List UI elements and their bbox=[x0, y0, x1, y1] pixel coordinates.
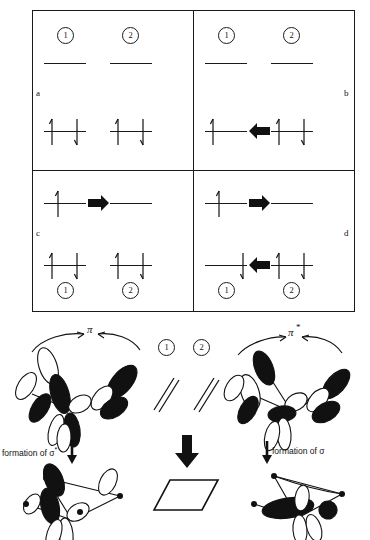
quadrant-c-transfer-arrow-right bbox=[88, 195, 110, 211]
left-upper-orbital-diagram bbox=[14, 342, 154, 444]
quadrant-a-electron-arrows bbox=[44, 117, 159, 147]
quadrant-b-upper-level-2 bbox=[271, 63, 313, 64]
quadrant-b-upper-level-1 bbox=[205, 63, 247, 64]
right-upper-orbital-diagram bbox=[222, 342, 362, 444]
right-product-orbital-diagram bbox=[240, 462, 370, 540]
scheme-circle-1: 1 bbox=[158, 339, 175, 356]
mo-box-vertical-divider bbox=[193, 10, 194, 312]
quadrant-b-circle-2: 2 bbox=[283, 27, 300, 44]
alkene-double-bond-symbols bbox=[150, 372, 230, 414]
quadrant-c-circle-2: 2 bbox=[122, 282, 139, 299]
quadrant-d-transfer-arrow-left bbox=[249, 257, 271, 273]
quadrant-c-label: c bbox=[36, 228, 40, 238]
quadrant-b-label: b bbox=[344, 88, 349, 98]
quadrant-c-circle-1: 1 bbox=[57, 282, 74, 299]
quadrant-b-circle-1: 1 bbox=[218, 27, 235, 44]
formation-sigma-label: formation of σ bbox=[272, 446, 325, 456]
formation-sigma-star-text: formation of σ bbox=[2, 448, 55, 458]
quadrant-a-upper-level-1 bbox=[44, 63, 86, 64]
center-reaction-arrow-down bbox=[174, 435, 200, 469]
quadrant-a-circle-2: 2 bbox=[122, 27, 139, 44]
left-product-orbital-diagram bbox=[10, 462, 150, 540]
formation-sigma-star-label: formation of σ* bbox=[2, 446, 57, 458]
mo-box-horizontal-divider bbox=[32, 170, 355, 171]
quadrant-d-transfer-arrow-right bbox=[249, 195, 271, 211]
quadrant-a-label: a bbox=[36, 88, 40, 98]
quadrant-a-upper-level-2 bbox=[110, 63, 152, 64]
scheme-circle-2: 2 bbox=[193, 339, 210, 356]
quadrant-d-circle-1: 1 bbox=[218, 282, 235, 299]
formation-sigma-star-asterisk: * bbox=[55, 446, 58, 453]
quadrant-b-transfer-arrow-left bbox=[249, 123, 271, 139]
quadrant-d-label: d bbox=[344, 228, 349, 238]
quadrant-d-circle-2: 2 bbox=[283, 282, 300, 299]
quadrant-c-lower-electron-arrows bbox=[44, 251, 159, 281]
quadrant-a-circle-1: 1 bbox=[57, 27, 74, 44]
cyclobutane-product-ring bbox=[152, 478, 224, 516]
